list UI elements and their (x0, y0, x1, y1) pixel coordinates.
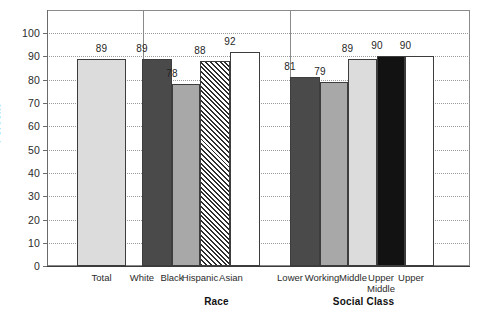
x-axis-line (47, 266, 470, 267)
value-label-hispanic: 88 (185, 45, 215, 56)
y-tick-label-0: 0 (0, 260, 40, 272)
category-label-total: Total (72, 272, 131, 283)
y-tick-label-30: 30 (0, 190, 40, 202)
y-tick-label-60: 60 (0, 120, 40, 132)
bar-lower[interactable] (290, 77, 320, 266)
value-label-middle: 89 (333, 43, 362, 54)
bar-white[interactable] (142, 59, 172, 266)
value-label-total: 89 (77, 43, 126, 54)
bar-chart: Percent 100 90 80 70 60 50 40 30 20 10 0 (0, 0, 486, 314)
bar-upper-middle[interactable] (377, 56, 405, 266)
bar-hispanic[interactable] (200, 61, 230, 266)
y-tick-label-20: 20 (0, 214, 40, 226)
y-tick-label-90: 90 (0, 50, 40, 62)
category-label-upper-middle: Upper Middle (364, 272, 398, 294)
bar-working[interactable] (320, 82, 348, 266)
bar-upper[interactable] (405, 56, 434, 266)
category-label-upper-middle-line1: Upper (368, 272, 394, 283)
bar-middle[interactable] (348, 59, 377, 266)
group-title-race: Race (143, 296, 290, 307)
y-tick-label-100: 100 (0, 27, 40, 39)
value-label-upper: 90 (391, 40, 420, 51)
category-label-upper-middle-line2: Middle (364, 283, 398, 294)
y-tick-label-80: 80 (0, 74, 40, 86)
value-label-black: 78 (158, 68, 186, 79)
bar-black[interactable] (172, 84, 200, 266)
category-label-hispanic: Hispanic (181, 272, 219, 283)
y-tick-label-70: 70 (0, 97, 40, 109)
y-tick-mark-0 (43, 266, 47, 267)
y-tick-label-50: 50 (0, 144, 40, 156)
value-label-white: 89 (127, 43, 157, 54)
y-tick-label-10: 10 (0, 237, 40, 249)
bar-total[interactable] (77, 59, 126, 266)
category-label-upper: Upper (394, 272, 428, 283)
category-label-asian: Asian (215, 272, 247, 283)
value-label-upper-middle: 90 (363, 40, 391, 51)
value-label-working: 79 (306, 66, 334, 77)
y-tick-label-40: 40 (0, 167, 40, 179)
value-label-asian: 92 (215, 36, 245, 47)
group-title-social-class: Social Class (290, 296, 437, 307)
value-label-lower: 81 (275, 61, 305, 72)
bar-asian[interactable] (230, 52, 260, 266)
